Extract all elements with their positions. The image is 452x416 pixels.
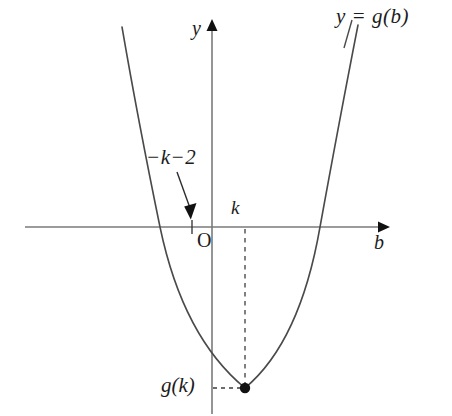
y-axis-label: y [192,18,201,38]
figure-canvas: y = g(b) y b O k −k−2 g(k) [0,0,452,416]
vertex-point-marker [240,383,250,393]
vertex-y-label: g(k) [161,375,195,396]
root-value-label: −k−2 [146,147,196,168]
root-arrow-head-icon [184,203,196,220]
root-arrow-shaft [177,172,190,208]
x-axis-label: b [374,232,384,252]
origin-label: O [197,230,211,250]
vertex-x-label: k [231,198,239,217]
parabola-curve [122,25,358,388]
root-annotation-arrow [177,172,197,220]
quadratic-graph-svg [0,0,452,416]
curve-equation-label: y = g(b) [336,6,409,27]
y-axis [207,19,218,414]
y-axis-arrowhead-icon [207,19,218,31]
